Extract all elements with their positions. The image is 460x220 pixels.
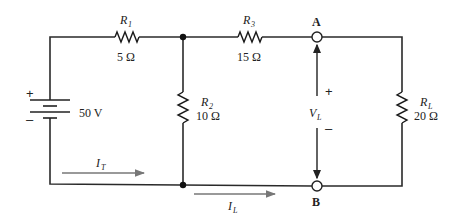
- wire-a-right: [322, 37, 402, 92]
- r3-sub: 3: [250, 20, 255, 29]
- battery-plus-sign: +: [26, 86, 34, 101]
- junction-node-top: [180, 34, 186, 40]
- battery-minus-sign: –: [26, 112, 34, 127]
- rl-value: 20 Ω: [414, 109, 438, 123]
- r2-name: R: [200, 95, 209, 109]
- r1-name: R: [119, 13, 128, 27]
- wire-bottom: [50, 118, 312, 186]
- terminal-a-label: A: [312, 15, 321, 29]
- r3-name: R: [242, 13, 251, 27]
- r1-sub: 1: [128, 20, 132, 29]
- vl-plus-sign: +: [325, 84, 333, 99]
- resistor-r3: [238, 32, 262, 42]
- terminal-b: [312, 181, 322, 191]
- r3-value: 15 Ω: [237, 50, 261, 64]
- battery-50v: [30, 100, 70, 118]
- wire-rl-bottom: [322, 123, 402, 186]
- rl-name: R: [419, 95, 428, 109]
- resistor-r2: [178, 92, 188, 123]
- it-sub: T: [101, 163, 106, 172]
- resistor-r1: [115, 32, 139, 42]
- r2-value: 10 Ω: [196, 109, 220, 123]
- vl-minus-sign: –: [325, 121, 333, 136]
- terminal-a: [312, 32, 322, 42]
- terminal-b-label: B: [312, 195, 320, 209]
- junction-node-bottom: [180, 182, 186, 188]
- r1-value: 5 Ω: [117, 50, 135, 64]
- wire-top-left: [50, 37, 115, 100]
- il-sub: L: [232, 206, 238, 215]
- resistor-rl: [397, 92, 407, 123]
- vl-sub: L: [316, 113, 322, 122]
- battery-voltage-label: 50 V: [79, 106, 103, 120]
- circuit-diagram: + – 50 V R 1 5 Ω R 3 15 Ω R 2 10 Ω R L 2…: [0, 0, 460, 220]
